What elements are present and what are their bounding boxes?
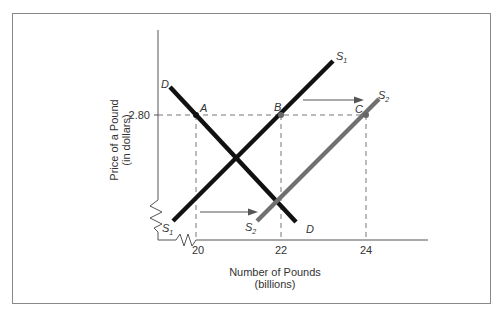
- x-tick-label-22: 22: [275, 244, 287, 256]
- x-tick-label-20: 20: [192, 244, 204, 256]
- figure-frame: [13, 14, 491, 304]
- label-D-bottom: D: [306, 223, 314, 235]
- x-tick-label-24: 24: [360, 244, 372, 256]
- label-B: B: [274, 101, 281, 113]
- label-C: C: [355, 103, 363, 115]
- y-axis-title: Price of a Pound: [108, 99, 120, 180]
- supply-demand-chart: A B C D D S1 S1 S2 S2 2.80 20 22 24 Numb…: [0, 0, 502, 317]
- x-axis-subtitle: (billions): [255, 278, 296, 290]
- point-A: [193, 112, 199, 118]
- y-axis-subtitle: (in dollars): [120, 114, 132, 165]
- label-A: A: [199, 102, 207, 114]
- x-axis-title: Number of Pounds: [229, 266, 321, 278]
- point-C: [363, 112, 369, 118]
- label-D-top: D: [161, 78, 169, 90]
